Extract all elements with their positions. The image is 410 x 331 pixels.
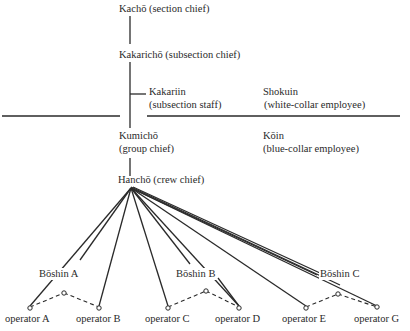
node-op-c bbox=[166, 306, 170, 310]
label-kumicho: Kumichō bbox=[119, 130, 158, 142]
line-to-op-a bbox=[30, 188, 131, 306]
node-op-a bbox=[28, 306, 32, 310]
line-to-op-c bbox=[131, 188, 168, 306]
line-to-boshin-a bbox=[80, 188, 131, 260]
node-op-g bbox=[375, 305, 379, 309]
label-operator-c: operator C bbox=[145, 313, 190, 325]
node-boshin-c bbox=[336, 292, 340, 296]
line-to-op-e bbox=[131, 188, 306, 306]
label-hancho: Hanchō (crew chief) bbox=[118, 174, 204, 186]
line-to-op-g-2 bbox=[131, 187, 340, 285]
label-koin-gloss: (blue-collar employee) bbox=[263, 143, 359, 155]
dash-boshina-opb bbox=[64, 293, 99, 307]
label-kakariin-gloss: (subsection staff) bbox=[149, 99, 221, 111]
label-kakariin: Kakariin bbox=[149, 86, 186, 98]
label-shokuin-gloss: (white-collar employee) bbox=[264, 99, 365, 111]
dash-opc-boshinb bbox=[168, 291, 206, 307]
label-boshin-c: Bōshin C bbox=[319, 268, 360, 280]
line-to-boshin-c-2 bbox=[133, 187, 320, 273]
dash-ope-boshinc bbox=[306, 294, 338, 307]
node-op-b bbox=[97, 306, 101, 310]
label-boshin-b: Bōshin B bbox=[175, 268, 216, 280]
label-operator-d: operator D bbox=[215, 313, 260, 325]
label-operator-a: operator A bbox=[5, 313, 50, 325]
node-boshin-a bbox=[62, 291, 66, 295]
node-boshin-b bbox=[204, 289, 208, 293]
node-op-d bbox=[237, 306, 241, 310]
label-kumicho-gloss: (group chief) bbox=[119, 143, 174, 155]
label-shokuin: Shokuin bbox=[263, 86, 298, 98]
label-operator-b: operator B bbox=[76, 313, 121, 325]
line-to-op-g bbox=[131, 188, 377, 306]
line-to-op-d bbox=[131, 188, 239, 306]
label-operator-e: operator E bbox=[282, 313, 326, 325]
label-kacho: Kachō (section chief) bbox=[119, 3, 209, 15]
label-koin: Kōin bbox=[263, 130, 284, 142]
node-op-e bbox=[304, 306, 308, 310]
label-kakaricho: Kakarichō (subsection chief) bbox=[119, 49, 240, 61]
label-operator-g: operator G bbox=[354, 313, 399, 325]
label-boshin-a: Bōshin A bbox=[38, 268, 79, 280]
